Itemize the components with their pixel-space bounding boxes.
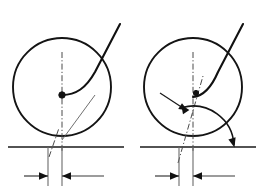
left-dimension-arrow-right-pointing bbox=[39, 172, 48, 180]
left-inclined-axis bbox=[49, 128, 59, 157]
right-profile-curve bbox=[193, 24, 243, 97]
left-dimension-arrow-left-pointing bbox=[62, 172, 71, 180]
right-angle-arc-arrowhead-bottom bbox=[228, 137, 235, 147]
technical-diagram-canvas bbox=[0, 0, 261, 194]
right-figure bbox=[140, 24, 256, 186]
left-contact-point-dot bbox=[59, 92, 65, 98]
right-dimension-arrow-left-pointing bbox=[193, 172, 202, 180]
right-dimension-arrow-right-pointing bbox=[170, 172, 179, 180]
left-figure bbox=[8, 24, 124, 186]
diagram-root bbox=[0, 0, 261, 194]
right-inclined-axis bbox=[178, 76, 203, 163]
right-contact-point-dot bbox=[193, 90, 198, 95]
right-angle-arc bbox=[182, 106, 234, 145]
